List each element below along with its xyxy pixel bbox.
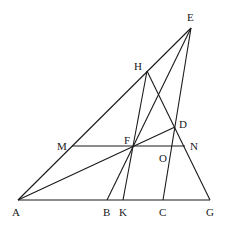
point-label-N: N [190,140,198,152]
point-label-A: A [12,206,20,218]
point-label-H: H [134,60,142,72]
point-label-K: K [119,206,127,218]
point-label-D: D [179,118,187,130]
point-label-E: E [187,11,194,23]
segment-AD [18,127,175,200]
point-label-F: F [124,134,130,146]
point-label-G: G [206,206,214,218]
line-segments [18,28,210,200]
segment-AE [18,28,191,200]
point-label-B: B [103,206,110,218]
segment-EC [163,28,191,200]
point-label-C: C [159,206,166,218]
geometry-diagram: ABKCGEHDMFNO [0,0,227,227]
point-label-M: M [57,140,67,152]
point-label-O: O [159,152,167,164]
diagram-svg: ABKCGEHDMFNO [0,0,227,227]
segment-EB [107,28,191,200]
